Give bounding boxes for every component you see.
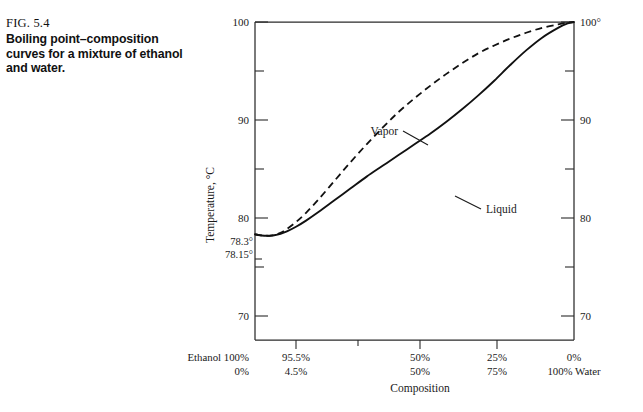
vapor-curve [255,22,574,236]
x-label-ethanol-25: 25% [487,351,507,363]
y-label-78-3: 78.3° [230,236,253,247]
y-label-right-100: 100° [580,16,601,28]
figure-container: FIG. 5.4 Boiling point–composition curve… [0,0,643,412]
y-label-right-70: 70 [580,310,592,322]
y-label-78-15: 78.15° [225,249,253,260]
liquid-leader-line [455,196,481,209]
axis-frame-lines [255,22,574,340]
y-label-90: 90 [238,114,250,126]
x-label-water-100: 100% Water [547,365,601,377]
boiling-point-composition-chart: 100 90 80 70 78.3° 78.15° 100° 90 80 70 … [0,0,643,412]
x-axis-title: Composition [390,382,450,395]
y-axis-right-ticks [561,22,574,316]
y-label-100: 100 [233,16,250,28]
liquid-annotation-label: Liquid [486,203,517,216]
y-axis-title: Temperature, °C [204,167,217,243]
annotation-leaders [403,131,481,209]
y-label-right-90: 90 [580,114,592,126]
plot-frame [255,22,574,340]
liquid-curve [255,22,574,236]
y-label-80: 80 [238,212,250,224]
y-axis-left-ticks [255,22,268,316]
y-label-70: 70 [238,310,250,322]
x-label-water-75: 75% [487,365,507,377]
x-label-ethanol-50: 50% [410,351,430,363]
x-label-water-0: 0% [235,365,249,377]
x-label-ethanol-100: Ethanol 100% [188,351,249,363]
vapor-annotation-label: Vapor [371,125,399,138]
x-label-ethanol-95-5: 95.5% [282,351,310,363]
x-label-water-4-5: 4.5% [285,365,308,377]
x-label-ethanol-0: 0% [567,351,581,363]
x-label-water-50: 50% [410,365,430,377]
x-axis-ticks [296,340,497,349]
y-label-right-80: 80 [580,212,592,224]
